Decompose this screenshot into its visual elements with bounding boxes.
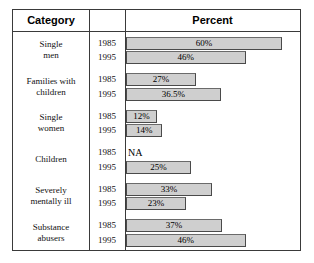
year-label: 1985 <box>98 182 116 197</box>
bar-value-label: 33% <box>161 185 178 194</box>
year-labels: 19851995 <box>89 69 125 106</box>
bar-line: NA <box>126 146 300 159</box>
category-label: Families withchildren <box>13 69 89 106</box>
bar-line: 25% <box>126 161 300 174</box>
bar-value-label: 14% <box>136 126 153 135</box>
bar-group: 37%46% <box>126 215 300 252</box>
chart-body: Singlemen1985199560%46%Families withchil… <box>13 32 300 251</box>
category-label-line1: Families with <box>26 76 75 87</box>
bar: 60% <box>126 37 282 50</box>
bar-group: 12%14% <box>126 105 300 142</box>
category-label-line2: women <box>38 123 65 134</box>
category-group: Families withchildren1985199527%36.5% <box>13 69 300 106</box>
bar: 33% <box>126 183 212 196</box>
year-labels: 19851995 <box>89 215 125 252</box>
bar-line: 37% <box>126 219 300 232</box>
year-labels: 19851995 <box>89 178 125 215</box>
year-label: 1995 <box>98 160 116 175</box>
category-group: Children19851995NA25% <box>13 142 300 179</box>
column-header-category: Category <box>13 10 89 31</box>
category-label-line2: mentally ill <box>30 196 71 207</box>
category-group: Singlemen1985199560%46% <box>13 32 300 69</box>
bar: 36.5% <box>126 88 221 101</box>
column-header-year <box>89 10 125 31</box>
category-label-line1: Single <box>39 112 62 123</box>
category-label-line1: Single <box>39 39 62 50</box>
bar-value-label: 36.5% <box>162 90 185 99</box>
na-value: NA <box>128 146 142 159</box>
category-label: Severelymentally ill <box>13 178 89 215</box>
year-labels: 19851995 <box>89 142 125 179</box>
bar-value-label: 46% <box>178 53 195 62</box>
bar: 37% <box>126 219 222 232</box>
year-label: 1995 <box>98 87 116 102</box>
bar-line: 23% <box>126 197 300 210</box>
bar-group: NA25% <box>126 142 300 179</box>
bar-line: 12% <box>126 110 300 123</box>
category-label: Children <box>13 142 89 179</box>
bar-value-label: 27% <box>153 75 170 84</box>
bar: 25% <box>126 161 191 174</box>
bar-value-label: 46% <box>178 236 195 245</box>
year-label: 1985 <box>98 72 116 87</box>
bar-value-label: 25% <box>150 163 167 172</box>
percent-chart-table: Category Percent Singlemen1985199560%46%… <box>12 9 301 251</box>
category-label-line1: Children <box>35 154 67 165</box>
bar: 12% <box>126 110 157 123</box>
bar-line: 46% <box>126 51 300 64</box>
year-label: 1985 <box>98 109 116 124</box>
bar: 23% <box>126 197 186 210</box>
category-group: Substanceabusers1985199537%46% <box>13 215 300 252</box>
bar-value-label: 60% <box>196 39 213 48</box>
category-group: Singlewomen1985199512%14% <box>13 105 300 142</box>
category-label-line2: children <box>36 87 66 98</box>
bar: 46% <box>126 234 246 247</box>
column-header-percent: Percent <box>125 10 300 31</box>
year-label: 1985 <box>98 145 116 160</box>
bar-line: 36.5% <box>126 88 300 101</box>
category-label: Singlewomen <box>13 105 89 142</box>
category-label-line2: men <box>43 50 59 61</box>
bar-value-label: 23% <box>148 199 165 208</box>
year-label: 1995 <box>98 50 116 65</box>
category-group: Severelymentally ill1985199533%23% <box>13 178 300 215</box>
table-header-row: Category Percent <box>13 10 300 32</box>
category-label-line1: Substance <box>33 222 70 233</box>
year-label: 1995 <box>98 123 116 138</box>
year-label: 1995 <box>98 233 116 248</box>
bar: 27% <box>126 73 196 86</box>
bar-group: 27%36.5% <box>126 69 300 106</box>
category-label: Substanceabusers <box>13 215 89 252</box>
year-label: 1985 <box>98 218 116 233</box>
bar: 14% <box>126 124 162 137</box>
bar-line: 60% <box>126 37 300 50</box>
category-label: Singlemen <box>13 32 89 69</box>
category-label-line1: Severely <box>35 185 67 196</box>
bar-line: 27% <box>126 73 300 86</box>
bar-line: 33% <box>126 183 300 196</box>
bar-value-label: 12% <box>133 112 150 121</box>
bar-line: 46% <box>126 234 300 247</box>
bar-value-label: 37% <box>166 221 183 230</box>
year-label: 1995 <box>98 196 116 211</box>
year-labels: 19851995 <box>89 32 125 69</box>
bar-group: 33%23% <box>126 178 300 215</box>
bar-group: 60%46% <box>126 32 300 69</box>
category-label-line2: abusers <box>38 233 65 244</box>
bar: 46% <box>126 51 246 64</box>
bar-line: 14% <box>126 124 300 137</box>
year-labels: 19851995 <box>89 105 125 142</box>
year-label: 1985 <box>98 36 116 51</box>
